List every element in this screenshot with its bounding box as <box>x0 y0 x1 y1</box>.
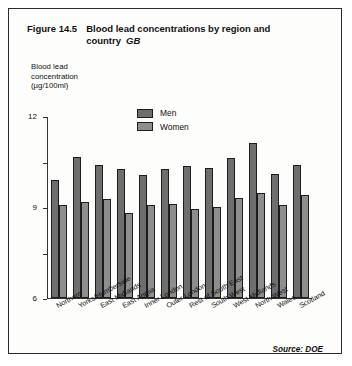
bar-women <box>59 205 67 298</box>
bar-group <box>180 117 202 298</box>
figure-scope: GB <box>126 35 140 46</box>
bar-men <box>139 175 147 298</box>
y-axis-tick: 3 <box>43 254 47 255</box>
bar-group <box>48 117 70 298</box>
bar-group <box>202 117 224 298</box>
bar-women <box>279 205 287 298</box>
page-title: Blood lead concentrations by region and … <box>86 23 327 47</box>
source-note: Source: DOE <box>272 345 323 354</box>
figure-number: Figure 14.5 <box>27 23 77 35</box>
bar-group <box>290 117 312 298</box>
y-axis-tick: 6 <box>43 208 47 209</box>
figure-title-row: Figure 14.5 Blood lead concentrations by… <box>27 23 327 47</box>
bar-group <box>92 117 114 298</box>
bar-women <box>257 193 265 298</box>
y-axis-tick-label: 6 <box>33 295 37 303</box>
bar-men <box>183 166 191 298</box>
bar-men <box>95 165 103 298</box>
bar-group <box>136 117 158 298</box>
bar-men <box>73 157 81 298</box>
y-axis-tick-label: 12 <box>28 113 37 121</box>
plot-area: 036912 <box>47 117 312 299</box>
bar-group <box>158 117 180 298</box>
y-axis-tick-label: 9 <box>33 204 37 212</box>
bar-women <box>301 195 309 298</box>
y-axis-tick: 9 <box>43 163 47 164</box>
bar-group <box>114 117 136 298</box>
y-axis-caption-line-2: concentration <box>31 72 78 82</box>
y-axis-caption-line-1: Blood lead <box>31 62 78 72</box>
bar-group <box>224 117 246 298</box>
bar-series-container <box>48 117 312 298</box>
bar-men <box>205 168 213 298</box>
bar-women <box>81 202 89 298</box>
bar-men <box>161 169 169 298</box>
y-axis-caption-line-3: (µg/100ml) <box>31 81 78 91</box>
y-axis-tick: 12 <box>43 117 47 118</box>
bar-men <box>249 143 257 298</box>
figure-title-text: Blood lead concentrations by region and … <box>86 23 270 46</box>
bar-group <box>268 117 290 298</box>
bar-men <box>51 180 59 298</box>
bar-men <box>293 165 301 298</box>
y-axis-tick: 0 <box>43 299 47 300</box>
y-axis-caption: Blood lead concentration (µg/100ml) <box>31 62 78 91</box>
figure-frame: Figure 14.5 Blood lead concentrations by… <box>8 8 342 354</box>
bar-group <box>246 117 268 298</box>
bar-group <box>70 117 92 298</box>
